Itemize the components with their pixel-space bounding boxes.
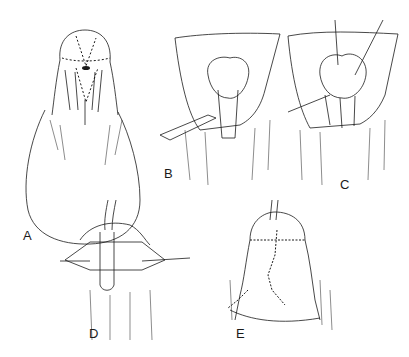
panel-label-b: B bbox=[164, 167, 173, 180]
panel-c-drawing bbox=[280, 20, 409, 200]
panel-e-drawing bbox=[220, 200, 409, 357]
panel-label-e: E bbox=[236, 327, 245, 340]
panel-d: D bbox=[60, 200, 240, 357]
panel-e: E bbox=[220, 200, 409, 357]
panel-label-c: C bbox=[340, 178, 349, 191]
panel-label-a: A bbox=[23, 229, 32, 242]
panel-d-drawing bbox=[60, 200, 240, 357]
panel-label-d: D bbox=[89, 327, 98, 340]
panel-c: C bbox=[280, 20, 409, 200]
panel-b-drawing bbox=[160, 20, 290, 200]
figure-canvas: A B bbox=[0, 0, 409, 357]
panel-b: B bbox=[160, 20, 290, 200]
